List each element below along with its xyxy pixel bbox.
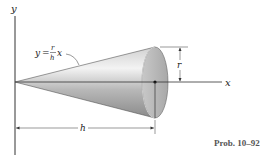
svg-text:=: = xyxy=(42,48,50,58)
height-label: h xyxy=(80,123,86,133)
y-axis: y xyxy=(10,3,17,155)
svg-text:r: r xyxy=(51,44,55,52)
y-axis-label: y xyxy=(10,3,17,14)
svg-text:h: h xyxy=(50,54,55,62)
cone-figure: y x y = r h x r h P xyxy=(0,0,266,155)
height-dimension: h xyxy=(16,120,155,134)
equation-leader-line xyxy=(66,54,79,65)
svg-text:x: x xyxy=(57,48,62,58)
equation-label: y = r h x xyxy=(34,44,79,65)
svg-text:y: y xyxy=(34,48,41,58)
problem-caption: Prob. 10–92 xyxy=(214,138,260,148)
radius-label: r xyxy=(177,60,182,70)
x-axis-label: x xyxy=(225,77,231,88)
